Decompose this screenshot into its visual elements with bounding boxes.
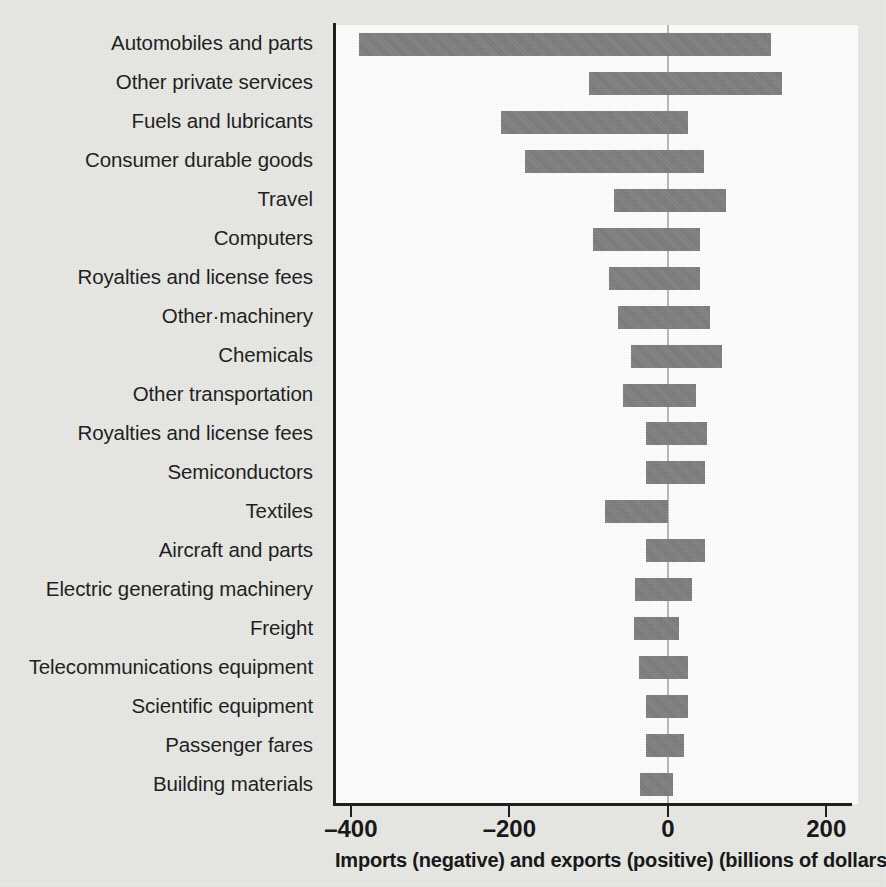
trade-bar bbox=[631, 345, 721, 368]
category-label: Other·machinery bbox=[0, 304, 313, 328]
trade-bar bbox=[359, 33, 771, 56]
bar-row bbox=[335, 765, 858, 804]
category-label: Travel bbox=[0, 187, 313, 211]
y-axis-spine bbox=[333, 23, 336, 806]
bar-row bbox=[335, 181, 858, 220]
category-label: Consumer durable goods bbox=[0, 148, 313, 172]
trade-bar bbox=[609, 267, 700, 290]
bar-row bbox=[335, 687, 858, 726]
category-axis-labels: Automobiles and partsOther private servi… bbox=[0, 25, 325, 804]
x-axis-title: Imports (negative) and exports (positive… bbox=[335, 849, 865, 872]
category-label: Freight bbox=[0, 616, 313, 640]
bar-row bbox=[335, 453, 858, 492]
bar-row bbox=[335, 64, 858, 103]
bar-row bbox=[335, 415, 858, 454]
category-label: Electric generating machinery bbox=[0, 577, 313, 601]
x-tick-label: 0 bbox=[661, 815, 674, 843]
bar-row bbox=[335, 220, 858, 259]
plot-area bbox=[335, 25, 858, 804]
trade-bar bbox=[623, 384, 697, 407]
x-tick-label: –200 bbox=[483, 815, 536, 843]
trade-bar bbox=[634, 617, 679, 640]
x-tick-label: –400 bbox=[324, 815, 377, 843]
x-axis-tick-labels: –400–2000200 bbox=[335, 815, 858, 847]
category-label: Textiles bbox=[0, 499, 313, 523]
category-label: Other private services bbox=[0, 70, 313, 94]
trade-bar bbox=[593, 228, 701, 251]
trade-bar bbox=[635, 578, 692, 601]
category-label: Aircraft and parts bbox=[0, 538, 313, 562]
bar-row bbox=[335, 298, 858, 337]
trade-bar bbox=[639, 656, 688, 679]
trade-bar bbox=[525, 150, 704, 173]
x-tick-label: 200 bbox=[806, 815, 846, 843]
trade-bar bbox=[646, 734, 684, 757]
trade-bar bbox=[646, 422, 706, 445]
trade-bar bbox=[589, 72, 782, 95]
trade-bar bbox=[646, 539, 705, 562]
category-label: Computers bbox=[0, 226, 313, 250]
category-label: Royalties and license fees bbox=[0, 421, 313, 445]
trade-bar bbox=[640, 773, 672, 796]
trade-balance-chart-figure: Automobiles and partsOther private servi… bbox=[0, 0, 886, 887]
category-label: Chemicals bbox=[0, 343, 313, 367]
category-label: Passenger fares bbox=[0, 733, 313, 757]
category-label: Semiconductors bbox=[0, 460, 313, 484]
bar-row bbox=[335, 648, 858, 687]
bar-row bbox=[335, 609, 858, 648]
bar-row bbox=[335, 531, 858, 570]
trade-bar bbox=[618, 306, 710, 329]
bar-row bbox=[335, 337, 858, 376]
category-label: Other transportation bbox=[0, 382, 313, 406]
bar-row bbox=[335, 259, 858, 298]
trade-bar bbox=[646, 461, 705, 484]
bar-row bbox=[335, 103, 858, 142]
trade-bar bbox=[646, 695, 688, 718]
bar-row bbox=[335, 376, 858, 415]
category-label: Scientific equipment bbox=[0, 694, 313, 718]
category-label: Telecommunications equipment bbox=[0, 655, 313, 679]
trade-bar bbox=[501, 111, 688, 134]
category-label: Fuels and lubricants bbox=[0, 109, 313, 133]
category-label: Building materials bbox=[0, 772, 313, 796]
category-label: Automobiles and parts bbox=[0, 31, 313, 55]
category-label: Royalties and license fees bbox=[0, 265, 313, 289]
bar-row bbox=[335, 726, 858, 765]
bar-row bbox=[335, 492, 858, 531]
bar-row bbox=[335, 142, 858, 181]
trade-bar bbox=[614, 189, 727, 212]
bar-row bbox=[335, 25, 858, 64]
bar-row bbox=[335, 570, 858, 609]
trade-bar bbox=[605, 500, 668, 523]
